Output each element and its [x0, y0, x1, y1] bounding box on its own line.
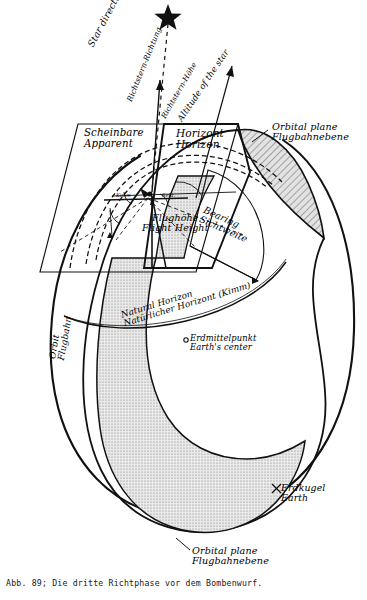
- label-flight-height-en: Flight Height: [142, 223, 209, 233]
- orbital-plane-upper-wedge: [238, 130, 324, 238]
- label-apparent-horizon-en: Apparent: [84, 139, 144, 150]
- label-horizon-en: Horizon: [176, 139, 224, 150]
- angle-label-kimm: Kimm: [116, 192, 131, 198]
- observer-point: [140, 188, 153, 198]
- label-orbital-plane-top: Orbital plane Flugbahnebene: [272, 122, 349, 142]
- label-earth-en: Earth: [281, 493, 325, 503]
- label-earth-center-en: Earth's center: [190, 343, 256, 352]
- label-orbital-plane-bottom: Orbital plane Flugbahnebene: [192, 546, 269, 566]
- label-earth-center: Erdmittelpunkt Earth's center: [190, 334, 256, 352]
- orbital-plane-bottom-leader: [176, 538, 190, 550]
- label-horizon: Horizont Horizon: [176, 128, 224, 150]
- figure-caption: Abb. 89; Die dritte Richtphase vor dem B…: [6, 578, 262, 588]
- label-apparent-horizon: Scheinbare Apparent: [84, 128, 144, 149]
- label-earth: Erdkugel Earth: [281, 483, 325, 503]
- figure-abb-89: Star direction Richtstern-Richtung Richt…: [0, 0, 367, 600]
- angle-label-sekt: Sekt.: [162, 192, 175, 198]
- earth-center-marker: [184, 338, 188, 342]
- label-orbital-plane-bottom-de: Flugbahnebene: [192, 556, 269, 566]
- label-orbital-plane-top-de: Flugbahnebene: [272, 132, 349, 142]
